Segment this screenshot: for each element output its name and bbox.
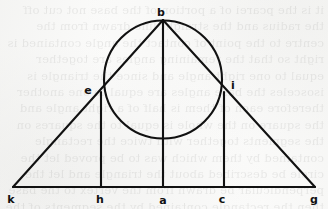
segment-bg — [163, 20, 315, 187]
vertex-label-i: i — [231, 80, 235, 91]
vertex-label-k: k — [7, 194, 14, 205]
segment-kb — [13, 20, 163, 187]
vertex-label-g: g — [310, 194, 318, 205]
vertex-label-b: b — [157, 7, 165, 18]
geometry-figure: it is the pcarei of a portion of the bas… — [0, 0, 328, 209]
segments-group — [13, 20, 315, 187]
vertex-label-a: a — [159, 195, 166, 206]
vertex-label-c: c — [219, 194, 226, 205]
vertex-label-h: h — [96, 194, 104, 205]
vertex-label-e: e — [84, 85, 91, 96]
geometry-drawing — [0, 0, 328, 209]
